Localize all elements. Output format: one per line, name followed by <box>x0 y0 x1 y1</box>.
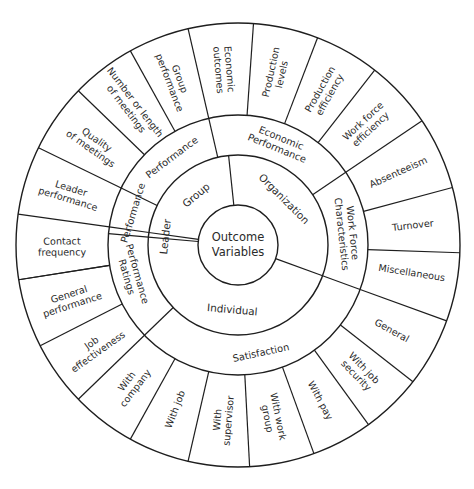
outer-segment-label: General <box>373 316 411 344</box>
inner-segment-label: Leader <box>157 218 173 255</box>
outer-segment-label: Generalperformance <box>38 279 103 319</box>
middle-divider <box>323 276 361 290</box>
outer-segment-label: Absenteeism <box>368 154 429 190</box>
middle-segment-label: EconomicPerformance <box>246 121 312 165</box>
center-label-line-1: Outcome <box>212 230 265 244</box>
outer-segment-label-text: frequency <box>38 246 87 257</box>
outer-divider <box>360 289 446 320</box>
inner-segment-label-text: Organization <box>257 171 312 226</box>
outer-segment-label: Leaderperformance <box>37 174 102 213</box>
outer-segment-label: With jobsecurity <box>339 350 382 394</box>
outer-segment-label-text: supervisor <box>220 395 235 446</box>
outer-segment-label: Productionefficiency <box>303 64 347 119</box>
outer-segment-label: With pay <box>306 379 336 422</box>
inner-segment-label: Individual <box>207 301 258 317</box>
inner-divider <box>276 259 323 276</box>
inner-segment-label-text: Leader <box>157 218 173 255</box>
middle-segment-label: Work ForceCharacteristics <box>333 196 363 271</box>
outer-segment-label: Contactfrequency <box>38 235 87 257</box>
outer-segment-label: Withcompany <box>109 360 154 409</box>
outer-segment-label: Jobeffectiveness <box>62 320 127 375</box>
outcome-variables-wheel-diagram: EconomicoutcomesProductionlevelsProducti… <box>0 0 474 489</box>
middle-segment-label: Performance <box>118 182 147 245</box>
center-hub: Outcome Variables <box>212 230 265 259</box>
outer-segment-label-text: Absenteeism <box>368 154 429 190</box>
middle-segment-label: Performance <box>144 134 200 180</box>
center-label-line-2: Variables <box>212 245 265 259</box>
outer-segment-label-text: Contact <box>43 235 81 246</box>
inner-divider <box>229 155 234 205</box>
outer-divider <box>188 372 209 462</box>
middle-segment-label-text: Performance <box>144 134 200 180</box>
middle-divider <box>144 308 173 336</box>
outer-divider <box>245 375 250 467</box>
outer-segment-label: Economicoutcomes <box>211 45 237 94</box>
outer-segment-label: With job <box>163 389 187 430</box>
outer-segment-label: Withsupervisor <box>210 394 236 446</box>
outer-segment-label-text: Turnover <box>391 217 435 233</box>
outer-segment-label: Miscellaneous <box>378 262 446 283</box>
outer-segment-label-text: effectiveness <box>69 329 127 375</box>
outer-divider <box>368 250 460 253</box>
outer-divider <box>188 29 209 119</box>
outer-divider <box>19 265 110 279</box>
outer-segment-label-text: With job <box>163 389 187 430</box>
outer-segment-label: Productionlevels <box>260 46 293 101</box>
inner-segment-label-text: Individual <box>207 301 258 317</box>
middle-segment-label-text: Performance <box>118 182 147 245</box>
outer-segment-label-text: outcomes <box>211 46 226 94</box>
middle-segment-label: Satisfaction <box>232 341 291 364</box>
inner-segment-label: Group <box>180 180 212 210</box>
middle-divider <box>209 118 218 157</box>
outer-segment-label: Work forceefficiency <box>340 99 393 150</box>
inner-segment-label-text: Group <box>180 180 212 210</box>
outer-divider <box>364 188 453 212</box>
outer-divider <box>18 214 109 227</box>
outer-segment-label-text: With pay <box>306 379 336 422</box>
middle-segment-label-text: Satisfaction <box>232 341 291 364</box>
outer-segment-label: With workgroup <box>258 392 289 444</box>
outer-divider <box>247 24 253 116</box>
middle-divider <box>313 172 346 194</box>
outer-divider <box>282 367 313 453</box>
inner-segment-label: Organization <box>257 171 312 226</box>
outer-segment-label: Turnover <box>391 217 435 233</box>
outer-segment-label-text: Miscellaneous <box>378 262 446 283</box>
outer-segment-label: Number or lengthof meetings <box>96 65 165 146</box>
outer-segment-label-text: General <box>373 316 411 344</box>
